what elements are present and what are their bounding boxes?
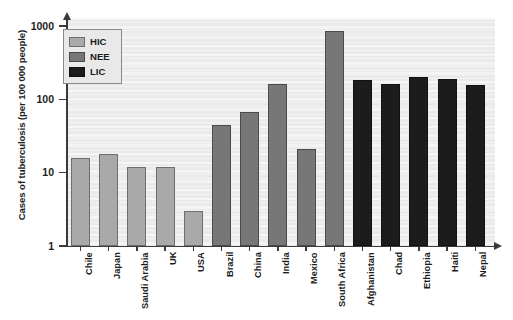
bar-south-africa [325, 31, 344, 246]
bar-haiti [438, 79, 457, 246]
y-axis-title: Cases of tuberculosis (per 100 000 peopl… [16, 2, 34, 248]
x-tick-label: Mexico [309, 252, 319, 284]
bar-ethiopia [409, 77, 428, 246]
legend: HICNEELIC [63, 29, 122, 84]
y-tick-label: 100 [18, 94, 54, 104]
x-tick-mark [193, 246, 194, 251]
bar-china [240, 112, 259, 246]
x-tick-mark [108, 246, 109, 251]
bar-usa [184, 211, 203, 246]
legend-label: LIC [90, 67, 105, 77]
x-tick-mark [164, 246, 165, 251]
x-tick-label: Afghanistan [366, 252, 376, 306]
x-tick-mark [390, 246, 391, 251]
bar-chad [381, 84, 400, 246]
y-tick-mark [59, 245, 66, 247]
x-tick-mark [362, 246, 363, 251]
y-tick-mark [59, 25, 66, 27]
x-tick-mark [221, 246, 222, 251]
y-tick-label-wrapper: 100 [18, 94, 54, 104]
x-tick-mark [249, 246, 250, 251]
bar-mexico [297, 149, 316, 246]
x-tick-label: Japan [112, 252, 122, 279]
legend-swatch-lic [69, 67, 85, 77]
y-axis-arrow-icon [63, 12, 71, 20]
legend-rows: HICNEELIC [69, 34, 116, 79]
x-tick-label: South Africa [337, 252, 347, 307]
bar-japan [99, 154, 118, 246]
x-tick-mark [446, 246, 447, 251]
legend-item-lic: LIC [69, 64, 116, 79]
plot-area [67, 18, 495, 246]
x-tick-label: Haiti [450, 252, 460, 272]
x-tick-label: Nepal [478, 252, 488, 277]
x-tick-mark [475, 246, 476, 251]
y-tick-label: 1000 [18, 21, 54, 31]
x-tick-mark [277, 246, 278, 251]
y-tick-label-wrapper: 1000 [18, 21, 54, 31]
x-tick-label: Ethiopia [422, 252, 432, 289]
bar-saudi-arabia [127, 167, 146, 246]
y-tick-label: 1 [18, 241, 54, 251]
y-tick-mark [59, 99, 66, 101]
bar-brazil [212, 125, 231, 246]
x-tick-mark [305, 246, 306, 251]
x-tick-label: Chile [84, 252, 94, 275]
x-tick-label: UK [168, 252, 178, 265]
legend-item-nee: NEE [69, 49, 116, 64]
x-tick-label: China [253, 252, 263, 278]
tuberculosis-bar-chart: Cases of tuberculosis (per 100 000 peopl… [0, 0, 513, 320]
legend-swatch-nee [69, 52, 85, 62]
x-axis-arrow-icon [494, 242, 502, 250]
x-tick-mark [80, 246, 81, 251]
y-tick-label-wrapper: 1 [18, 241, 54, 251]
x-tick-label: Brazil [225, 252, 235, 277]
x-tick-label: USA [196, 252, 206, 272]
x-tick-label: Saudi Arabia [140, 253, 150, 310]
x-tick-mark [334, 246, 335, 251]
bar-afghanistan [353, 80, 372, 246]
x-axis-line [66, 246, 496, 248]
legend-item-hic: HIC [69, 34, 116, 49]
x-tick-mark [136, 246, 137, 251]
legend-label: HIC [90, 37, 107, 47]
legend-swatch-hic [69, 37, 85, 47]
y-tick-label: 10 [18, 167, 54, 177]
bar-uk [156, 167, 175, 246]
x-tick-label: Chad [394, 252, 404, 275]
bar-nepal [466, 85, 485, 246]
y-tick-label-wrapper: 10 [18, 167, 54, 177]
bar-india [268, 84, 287, 246]
x-tick-label: India [281, 252, 291, 274]
x-tick-mark [418, 246, 419, 251]
legend-label: NEE [90, 52, 110, 62]
bar-chile [71, 158, 90, 246]
y-tick-mark [59, 172, 66, 174]
